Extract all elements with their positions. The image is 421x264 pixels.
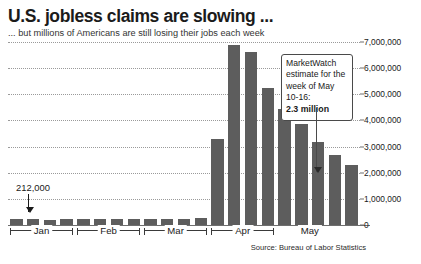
month-label: May (298, 225, 322, 236)
bar (329, 155, 341, 225)
bar (228, 45, 240, 225)
estimate-value: 2.3 million (286, 104, 348, 116)
y-axis-tick-label: 6,000,000 (364, 63, 401, 73)
y-axis-tick-mark (360, 120, 364, 121)
y-axis-tick-label: 7,000,000 (364, 37, 401, 47)
bar (295, 124, 307, 225)
bar (211, 139, 223, 225)
y-axis-tick-mark (360, 225, 364, 226)
month-group: Feb (77, 226, 140, 244)
month-label: Jan (31, 225, 52, 236)
month-label: Mar (164, 225, 187, 236)
y-axis-tick-label: 4,000,000 (364, 115, 401, 125)
y-axis-tick-mark (360, 146, 364, 147)
bar (245, 52, 257, 225)
y-axis-labels: 7,000,0006,000,0005,000,0004,000,0003,00… (364, 42, 421, 232)
y-axis-tick-mark (360, 68, 364, 69)
source-note: Source: Bureau of Labor Statistics (251, 243, 366, 252)
y-axis-tick-mark (360, 94, 364, 95)
month-group: Mar (144, 226, 207, 244)
estimate-line-1: MarketWatch (286, 58, 336, 68)
chart-page: U.S. jobless claims are slowing ... ... … (0, 0, 421, 264)
page-title: U.S. jobless claims are slowing ... (8, 6, 273, 27)
y-axis-tick-label: 1,000,000 (364, 194, 401, 204)
callout-212000: 212,000 (16, 182, 50, 193)
bar (278, 109, 290, 225)
month-label: Apr (232, 225, 253, 236)
y-axis-tick-mark (360, 42, 364, 43)
month-group: May (278, 226, 341, 244)
y-axis-tick-label: 0 (364, 220, 369, 230)
month-label: Feb (97, 225, 120, 236)
month-group: Jan (10, 226, 73, 244)
bar (312, 142, 324, 225)
y-axis-tick-mark (360, 172, 364, 173)
bar (195, 218, 207, 225)
callout-212000-arrow-icon (28, 194, 29, 212)
y-axis-tick-label: 5,000,000 (364, 89, 401, 99)
estimate-arrow-icon (316, 108, 317, 172)
bar (345, 165, 357, 225)
y-axis-tick-label: 3,000,000 (364, 142, 401, 152)
estimate-annotation-box: MarketWatch estimate for the week of May… (281, 54, 353, 121)
page-subtitle: ... but millions of Americans are still … (8, 28, 264, 38)
estimate-line-2: estimate for (286, 69, 331, 79)
y-axis-tick-mark (360, 198, 364, 199)
y-axis-tick-label: 2,000,000 (364, 168, 401, 178)
month-group: Apr (211, 226, 274, 244)
bar (262, 88, 274, 225)
